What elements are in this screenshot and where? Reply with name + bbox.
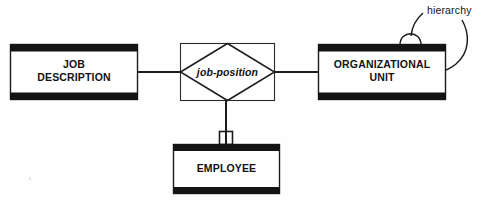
- entity-organizational-unit-body: [319, 45, 446, 100]
- entity-job-description-bottom-bar: [10, 93, 138, 101]
- scan-speck: [29, 177, 31, 180]
- diagram-vector-layer: [0, 0, 484, 211]
- hierarchy-side-curve: [446, 20, 467, 70]
- entity-job-description-body: [11, 45, 138, 100]
- entity-employee-body: [174, 145, 280, 194]
- entity-organizational-unit-bottom-bar: [318, 93, 446, 101]
- hierarchy-loop-stem: [411, 13, 423, 36]
- entity-employee-bottom-bar: [173, 187, 280, 194]
- entity-organizational-unit[interactable]: [318, 44, 446, 100]
- entity-employee-top-bar: [173, 144, 280, 151]
- entity-job-description-top-bar: [10, 44, 138, 52]
- er-diagram-canvas: JOB DESCRIPTION ORGANIZATIONAL UNIT EMPL…: [0, 0, 484, 211]
- entity-employee[interactable]: [173, 144, 280, 194]
- relationship-job-position[interactable]: [181, 44, 275, 101]
- entity-job-description[interactable]: [10, 44, 138, 100]
- entity-organizational-unit-top-bar: [318, 44, 446, 52]
